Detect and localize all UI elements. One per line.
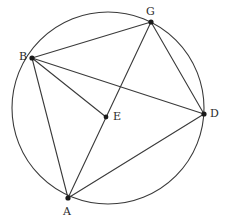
segment-b-a <box>32 58 68 198</box>
vertex-label-e: E <box>113 111 121 122</box>
main-circle <box>12 12 204 204</box>
vertex-dot-g <box>148 19 153 24</box>
segment-b-g <box>32 22 151 58</box>
vertex-dot-a <box>65 195 70 200</box>
segment-g-a <box>68 22 151 198</box>
segment-b-e <box>32 58 106 117</box>
vertex-dot-d <box>201 111 206 116</box>
segment-g-d <box>151 22 204 114</box>
vertex-dot-b <box>29 55 34 60</box>
vertex-label-b: B <box>19 51 27 62</box>
vertex-dot-e <box>104 115 109 120</box>
circle-geometry-diagram: G B D E A <box>0 0 228 223</box>
vertex-label-a: A <box>63 206 71 217</box>
vertex-label-g: G <box>146 6 155 17</box>
segment-b-d <box>32 58 204 114</box>
vertex-label-d: D <box>210 108 219 119</box>
